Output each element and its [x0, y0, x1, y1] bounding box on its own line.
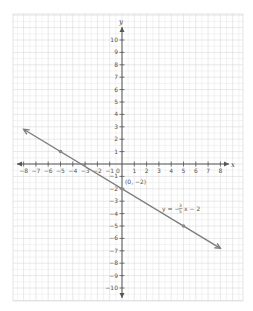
- coordinate-plane: −8−7−6−5−4−3−2−1012345678 −10−9−8−7−6−5−…: [0, 0, 253, 311]
- y-tick-label: 3: [114, 123, 118, 130]
- data-point: [182, 224, 186, 228]
- x-tick-label: −4: [68, 167, 77, 174]
- y-tick-label: −7: [109, 247, 118, 254]
- x-axis: −8−7−6−5−4−3−2−1012345678: [17, 162, 229, 175]
- x-tick-label: 8: [218, 167, 222, 174]
- y-tick-label: −8: [109, 259, 118, 266]
- y-tick-label: 5: [114, 98, 118, 105]
- x-tick-label: 1: [132, 167, 136, 174]
- y-axis-name: y: [118, 18, 124, 26]
- equation-label: y = − 3 5 x − 2: [162, 203, 200, 214]
- svg-text:3: 3: [179, 203, 182, 208]
- y-tick-label: −5: [109, 222, 118, 229]
- y-tick-label: −3: [109, 197, 118, 204]
- y-tick-label: 2: [114, 135, 118, 142]
- x-tick-label: 7: [206, 167, 210, 174]
- svg-text:x − 2: x − 2: [184, 205, 200, 212]
- x-tick-label: −6: [44, 167, 53, 174]
- x-tick-label: −8: [19, 167, 28, 174]
- y-tick-label: 8: [114, 61, 118, 68]
- intercept-label: (0, −2): [125, 178, 146, 185]
- y-tick-label: −10: [105, 284, 118, 291]
- y-tick-label: −6: [109, 234, 118, 241]
- x-tick-label: 6: [194, 167, 198, 174]
- y-tick-label: 1: [114, 148, 118, 155]
- x-tick-label: 5: [182, 167, 186, 174]
- x-tick-label: −7: [31, 167, 40, 174]
- y-tick-label: 4: [114, 110, 118, 117]
- data-point: [120, 187, 124, 191]
- grid: [13, 14, 243, 301]
- svg-text:5: 5: [179, 209, 182, 214]
- y-tick-label: 10: [110, 36, 118, 43]
- y-tick-label: 6: [114, 86, 118, 93]
- x-tick-label: 4: [169, 167, 173, 174]
- y-tick-label: −1: [109, 172, 118, 179]
- x-tick-label: −2: [93, 167, 102, 174]
- data-point: [59, 150, 63, 154]
- x-tick-label: 3: [157, 167, 161, 174]
- y-tick-label: −9: [109, 272, 118, 279]
- y-tick-label: −4: [109, 210, 118, 217]
- x-tick-label: 2: [145, 167, 149, 174]
- y-tick-label: 7: [114, 73, 118, 80]
- x-tick-label: −5: [56, 167, 65, 174]
- y-tick-label: 9: [114, 48, 118, 55]
- svg-text:y = −: y = −: [162, 205, 179, 213]
- x-axis-name: x: [231, 161, 235, 169]
- y-axis: −10−9−8−7−6−5−4−3−2−112345678910: [105, 27, 124, 298]
